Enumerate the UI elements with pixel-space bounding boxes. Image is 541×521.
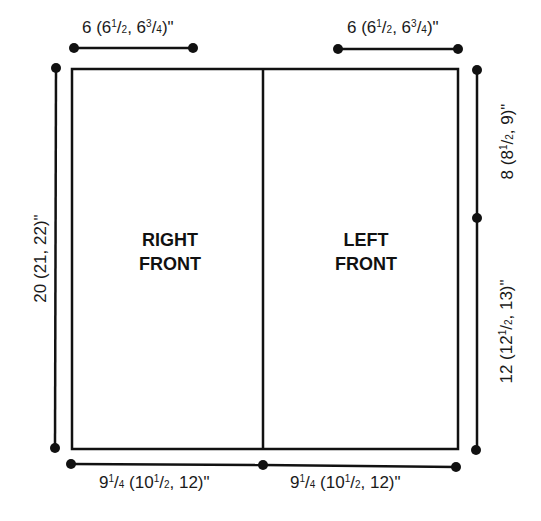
measurement-bottom-left: 91/4 (101/2, 12)": [99, 474, 210, 491]
panel-right-front: RIGHT FRONT: [120, 228, 220, 276]
endpoint-dot: [69, 43, 79, 53]
endpoint-dot: [51, 63, 61, 73]
endpoint-dot: [472, 213, 482, 223]
panel-title-line: FRONT: [316, 252, 416, 276]
panel-left-front: LEFT FRONT: [316, 228, 416, 276]
measurement-left-height: 20 (21, 22)": [32, 199, 49, 319]
endpoint-dot: [453, 44, 463, 54]
panel-title-line: FRONT: [120, 252, 220, 276]
panel-title-line: RIGHT: [120, 228, 220, 252]
endpoint-dot: [472, 65, 482, 75]
endpoint-dot: [471, 445, 481, 455]
endpoint-dot: [451, 462, 461, 472]
endpoint-dot: [258, 460, 268, 470]
measurement-right-upper: 8 (81/2, 9)": [499, 87, 516, 197]
dim-line-bottom-left: [71, 464, 263, 465]
measurement-bottom-right: 91/4 (101/2, 12)": [290, 474, 401, 491]
dim-line-left: [55, 68, 56, 448]
panel-title-line: LEFT: [316, 228, 416, 252]
endpoint-dot: [188, 43, 198, 53]
measurement-right-lower: 12 (121/2, 13)": [498, 262, 515, 402]
dim-line-bottom-right: [263, 465, 456, 467]
measurement-top-left: 6 (61/2, 63/4)": [82, 19, 174, 36]
endpoint-dot: [333, 44, 343, 54]
measurement-top-right: 6 (61/2, 63/4)": [347, 19, 439, 36]
endpoint-dot: [50, 443, 60, 453]
endpoint-dot: [66, 459, 76, 469]
schematic-drawing: [0, 0, 541, 521]
